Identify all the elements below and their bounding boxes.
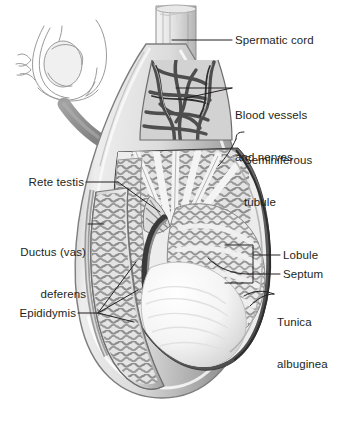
label-spermatic-cord: Spermatic cord bbox=[235, 33, 314, 47]
label-blood-vessels-line1: Blood vessels bbox=[235, 108, 307, 122]
label-ductus-line2: deferens bbox=[2, 287, 86, 301]
label-ductus-line1: Ductus (vas) bbox=[2, 245, 86, 259]
label-tunica-albuginea: Tunica albuginea bbox=[277, 287, 328, 399]
label-lobule: Lobule bbox=[283, 248, 318, 262]
label-rete-testis: Rete testis bbox=[8, 175, 84, 189]
label-seminiferous-tubule: Seminiferous tubule bbox=[244, 125, 312, 237]
label-tunica-line2: albuginea bbox=[277, 357, 328, 371]
label-tunica-line1: Tunica bbox=[277, 315, 328, 329]
blood-vessels-and-nerves bbox=[135, 55, 240, 148]
scrotum-outline-inset bbox=[16, 20, 107, 101]
label-seminiferous-line2: tubule bbox=[244, 195, 312, 209]
label-epididymis: Epididymis bbox=[2, 306, 76, 320]
figure-canvas: Spermatic cord Blood vessels and nerves … bbox=[0, 0, 350, 426]
label-seminiferous-line1: Seminiferous bbox=[244, 153, 312, 167]
label-septum: Septum bbox=[283, 267, 323, 281]
